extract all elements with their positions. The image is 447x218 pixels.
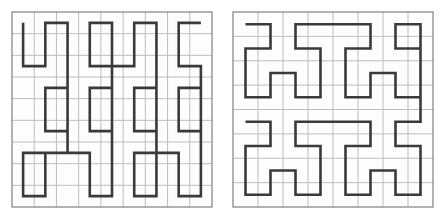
hilbert-curve-plot — [233, 12, 433, 207]
panel-hilbert-curve — [233, 12, 433, 207]
panel-peano-curve — [12, 12, 212, 207]
space-filling-curves-figure — [0, 0, 447, 218]
peano-curve-plot — [12, 12, 212, 207]
